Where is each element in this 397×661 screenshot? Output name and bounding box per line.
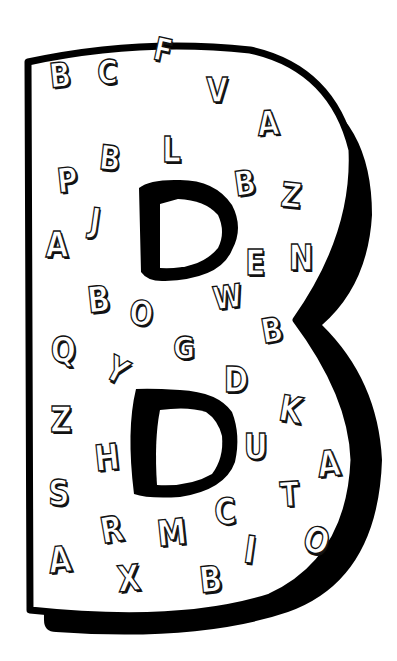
letter-h: H [93,439,121,477]
letter-i: I [242,530,259,569]
letter-x: X [116,560,142,598]
letter-y: Y [100,350,134,390]
letter-r: R [98,510,127,549]
letter-z: Z [279,177,303,213]
letter-n: N [289,240,314,276]
letter-a: A [256,105,280,140]
letter-q: Q [51,332,76,368]
letter-a: A [316,445,342,483]
letter-b: B [258,311,285,348]
letter-o: O [299,520,334,562]
scattered-letters: BCFVALPBBZAJENBOWGBQYDKZHUASTRMCIOAXB [0,0,397,661]
letter-j: J [88,202,103,237]
letter-b: B [86,281,112,319]
letter-e: E [245,245,265,281]
letter-d: D [224,362,249,398]
letter-t: T [279,476,300,511]
letter-a: A [46,227,69,263]
letter-c: C [97,55,117,89]
letter-b: B [47,57,72,93]
letter-w: W [212,279,245,315]
letter-b: B [198,561,224,599]
letter-u: U [244,429,268,465]
letter-v: V [206,73,228,107]
letter-a: A [47,541,73,579]
letter-c: C [213,493,237,530]
letter-z: Z [50,402,71,438]
letter-b: B [232,165,258,202]
letter-p: P [55,162,79,198]
letter-o: O [128,295,154,331]
letter-f: F [151,32,175,67]
letter-k: K [277,390,306,429]
letter-l: L [162,132,181,168]
letter-g: G [174,332,196,364]
letter-b: B [97,140,122,176]
letter-m: M [156,514,189,553]
letter-s: S [48,475,69,511]
